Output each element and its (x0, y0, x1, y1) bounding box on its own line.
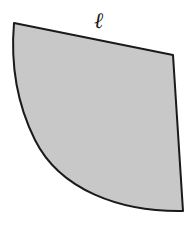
shaded-sector-region (13, 23, 183, 211)
diagram-figure: ℓ (0, 0, 193, 227)
edge-label-l: ℓ (94, 10, 103, 32)
sector-shape-svg (0, 0, 193, 227)
